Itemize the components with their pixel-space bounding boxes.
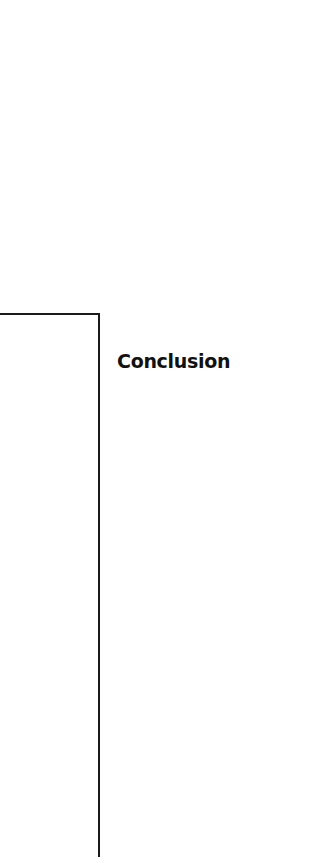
section-heading: Conclusion xyxy=(117,350,230,372)
content-frame xyxy=(0,313,100,857)
